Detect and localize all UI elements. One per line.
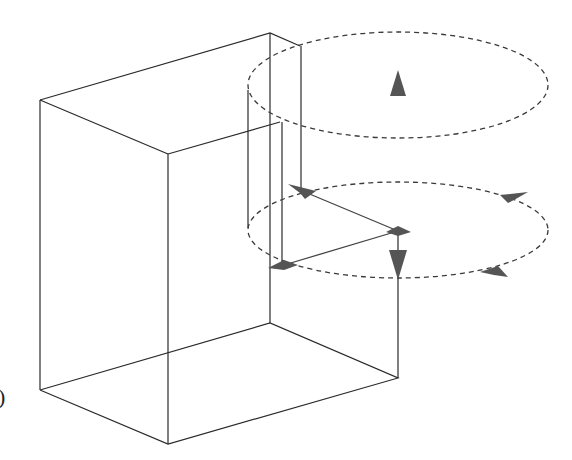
down-arrow-icon — [389, 250, 407, 280]
right-bottom-arrow-icon — [480, 266, 508, 277]
right-top-arrow-icon — [500, 192, 528, 203]
wireframe-diagram — [0, 0, 572, 460]
link-top-left-to-center — [300, 190, 398, 231]
edge-label: ) — [0, 384, 5, 410]
box-bottom-edge — [40, 323, 398, 444]
left-top-arrow-icon — [288, 184, 316, 199]
link-bottom-left-to-center — [284, 231, 398, 265]
up-arrow-icon — [390, 70, 406, 96]
box-top-edge-front-left — [40, 100, 168, 154]
box-top-edge-front-right — [168, 122, 280, 154]
box-wireframe — [40, 33, 398, 444]
node-links — [284, 190, 398, 265]
box-top-edge-back — [40, 33, 300, 100]
